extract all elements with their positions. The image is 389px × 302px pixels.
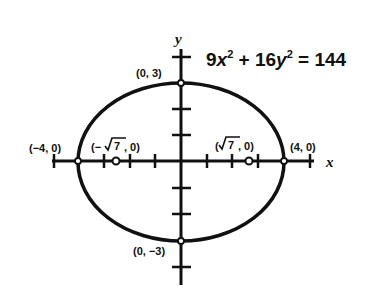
right-focus-label: ( 7 , 0)	[215, 137, 254, 152]
svg-text:7: 7	[228, 139, 234, 151]
y-axis: y	[172, 31, 191, 285]
bottom-vertex-label: (0, −3)	[133, 245, 165, 257]
right-vertex-label: (4, 0)	[290, 141, 316, 153]
bottom-vertex-marker	[178, 238, 184, 244]
x-axis: x	[52, 154, 334, 170]
ellipse-diagram: x y (0, 3) (0, −3) (−4, 0) (4, 0) (− 7	[0, 0, 389, 302]
top-vertex-marker	[178, 80, 184, 86]
y-axis-label: y	[173, 31, 182, 47]
right-focus-marker	[246, 158, 253, 165]
svg-text:, 0): , 0)	[238, 140, 254, 152]
left-focus-label: (− 7 , 0)	[91, 138, 140, 153]
left-vertex-label: (−4, 0)	[29, 142, 61, 154]
top-vertex-label: (0, 3)	[136, 67, 162, 79]
svg-text:(: (	[215, 140, 219, 152]
right-vertex-marker	[281, 158, 287, 164]
svg-text:(−: (−	[91, 141, 101, 153]
ellipse-equation: 9x2 + 16y2 = 144	[206, 48, 347, 70]
x-axis-label: x	[325, 154, 334, 170]
svg-text:, 0): , 0)	[124, 141, 140, 153]
svg-text:7: 7	[114, 140, 120, 152]
left-focus-marker	[113, 158, 120, 165]
left-vertex-marker	[75, 158, 81, 164]
